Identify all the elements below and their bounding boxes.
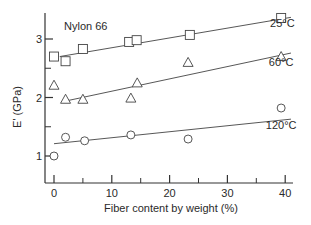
x-tick-label: 30 <box>221 187 233 199</box>
axes: 010203040123 <box>36 13 293 199</box>
circle-marker <box>81 137 89 145</box>
circle-marker <box>184 135 192 143</box>
circle-marker <box>62 133 70 141</box>
x-tick-label: 10 <box>106 187 118 199</box>
circle-marker <box>50 152 58 160</box>
series-label: 25°C <box>270 17 295 29</box>
circle-marker <box>127 131 135 139</box>
chart-title: Nylon 66 <box>64 20 107 32</box>
y-axis-label: E' (GPa) <box>11 86 23 128</box>
triangle-marker <box>183 57 193 66</box>
square-marker <box>185 30 194 39</box>
chart: 010203040123 25°C60°C120°C Nylon 66 Fibe… <box>0 0 311 225</box>
square-marker <box>78 44 87 53</box>
triangle-marker <box>61 94 71 103</box>
triangle-marker <box>49 80 59 89</box>
x-tick-label: 0 <box>51 187 57 199</box>
series-labels: 25°C60°C120°C <box>266 17 297 131</box>
triangle-marker <box>126 93 136 102</box>
fit-line <box>54 119 291 144</box>
x-axis-label: Fiber content by weight (%) <box>104 202 238 214</box>
y-tick-label: 1 <box>36 150 42 162</box>
triangle-marker <box>78 94 88 103</box>
square-marker <box>50 52 59 61</box>
y-tick-label: 3 <box>36 33 42 45</box>
fit-line <box>68 53 291 100</box>
y-tick-label: 2 <box>36 92 42 104</box>
series-label: 120°C <box>266 119 297 131</box>
circle-marker <box>277 104 285 112</box>
data-points <box>49 13 286 160</box>
series-label: 60°C <box>269 56 294 68</box>
x-tick-label: 40 <box>279 187 291 199</box>
fit-lines <box>54 17 291 143</box>
triangle-marker <box>132 78 142 87</box>
x-tick-label: 20 <box>163 187 175 199</box>
square-marker <box>132 36 141 45</box>
square-marker <box>61 57 70 66</box>
